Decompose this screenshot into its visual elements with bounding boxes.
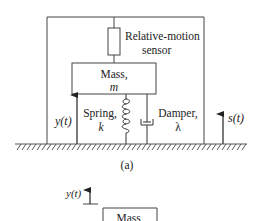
spring-label: Spring, — [83, 107, 117, 120]
damper-label: Damper, — [158, 107, 198, 120]
spring-symbol: k — [98, 121, 104, 133]
mass-label-b: Mass, — [116, 212, 143, 221]
caption-a: (a) — [121, 159, 134, 172]
relative-motion-sensor — [108, 28, 120, 55]
damper-icon — [141, 94, 153, 144]
mass-label: Mass, — [100, 68, 127, 81]
mass-symbol: m — [110, 81, 118, 93]
diagram-canvas: y(t) s(t) Relative-motion sensor Mass, m… — [0, 0, 261, 221]
damper-symbol: λ — [175, 121, 181, 133]
sensor-label: Relative-motion — [125, 30, 200, 42]
y-label-b: y(t) — [65, 187, 82, 200]
ground-hatch — [15, 144, 247, 150]
figure-b: y(t) Mass, — [65, 187, 157, 221]
y-label: y(t) — [54, 114, 72, 128]
sensor-label-2: sensor — [142, 44, 172, 56]
figure-a: y(t) s(t) Relative-motion sensor Mass, m… — [15, 17, 247, 172]
s-label: s(t) — [228, 111, 244, 125]
spring-icon — [122, 94, 130, 144]
